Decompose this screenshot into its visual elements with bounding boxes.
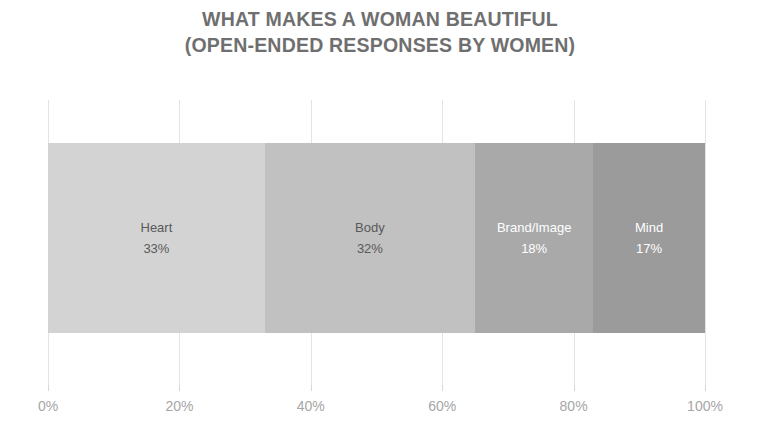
x-axis-tick-marks: [48, 385, 705, 391]
bar-segment-body[interactable]: Body32%: [265, 143, 475, 333]
bar-segment-label: Mind: [635, 217, 663, 238]
chart-title: WHAT MAKES A WOMAN BEAUTIFUL (OPEN-ENDED…: [27, 6, 734, 58]
bar-segment-value: 17%: [636, 238, 662, 259]
bar-segment-label: Brand/Image: [497, 217, 571, 238]
axis-label-60: 60%: [428, 396, 456, 416]
bar-segment-value: 32%: [357, 238, 383, 259]
x-axis-labels: 0%20%40%60%80%100%: [0, 396, 760, 418]
bar-segment-label: Heart: [141, 217, 173, 238]
bar-segment-mind[interactable]: Mind17%: [593, 143, 705, 333]
axis-tick-0: [48, 385, 49, 391]
bar-segment-value: 18%: [521, 238, 547, 259]
gridline-100: [705, 100, 706, 385]
axis-tick-20: [179, 385, 180, 391]
axis-tick-80: [574, 385, 575, 391]
stacked-bar-series: Heart33%Body32%Brand/Image18%Mind17%: [48, 143, 705, 333]
axis-tick-40: [311, 385, 312, 391]
axis-tick-100: [705, 385, 706, 391]
bar-segment-heart[interactable]: Heart33%: [48, 143, 265, 333]
axis-label-100: 100%: [687, 396, 723, 416]
chart-title-line-1: WHAT MAKES A WOMAN BEAUTIFUL: [27, 6, 734, 32]
plot-area: Heart33%Body32%Brand/Image18%Mind17%: [48, 100, 705, 385]
axis-label-0: 0%: [38, 396, 58, 416]
axis-label-20: 20%: [165, 396, 193, 416]
axis-label-80: 80%: [560, 396, 588, 416]
axis-tick-60: [442, 385, 443, 391]
bar-segment-value: 33%: [143, 238, 169, 259]
bar-segment-brand-image[interactable]: Brand/Image18%: [475, 143, 593, 333]
bar-segment-label: Body: [355, 217, 385, 238]
chart-title-line-2: (OPEN-ENDED RESPONSES BY WOMEN): [27, 32, 734, 58]
axis-label-40: 40%: [297, 396, 325, 416]
